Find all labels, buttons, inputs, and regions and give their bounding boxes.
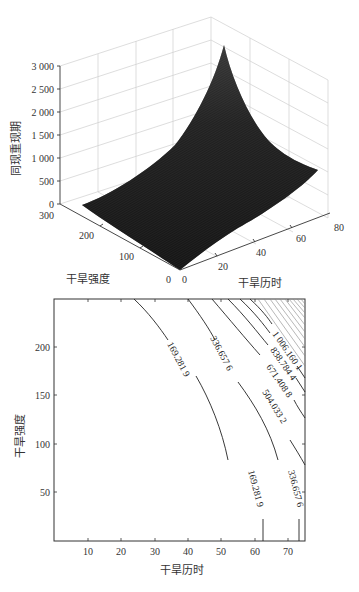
- contour-y-tick-labels: 50 100 150 200: [35, 342, 50, 498]
- contour-plot: 169.281 9 336.657 6 504.033 2 671.408 8 …: [0, 0, 359, 592]
- contour-labels: 169.281 9 336.657 6 504.033 2 671.408 8 …: [165, 329, 305, 508]
- x-tick: 50: [216, 546, 226, 557]
- contour-label: 336.657 6: [208, 334, 235, 372]
- y-tick: 200: [35, 342, 50, 353]
- figure-caption-cutoff: [20, 582, 350, 592]
- y-tick: 150: [35, 390, 50, 401]
- contour-x-axis-label: 干旱历时: [160, 564, 204, 577]
- contour-frame: [54, 299, 305, 541]
- y-tick: 100: [35, 439, 50, 450]
- x-tick: 20: [116, 546, 126, 557]
- x-tick: 30: [150, 546, 160, 557]
- x-tick: 60: [250, 546, 260, 557]
- contour-label: 336.657 6: [286, 469, 306, 509]
- y-tick: 50: [40, 487, 50, 498]
- x-tick: 70: [283, 546, 293, 557]
- contour-x-tick-labels: 10 20 30 40 50 60 70: [83, 546, 293, 557]
- x-tick: 10: [83, 546, 93, 557]
- contour-y-axis-label: 干旱强度: [13, 414, 27, 458]
- x-tick: 40: [183, 546, 193, 557]
- contour-ticks: [54, 299, 305, 541]
- contour-label: 169.281 9: [165, 340, 192, 378]
- contour-label: 169.281 9: [246, 469, 266, 509]
